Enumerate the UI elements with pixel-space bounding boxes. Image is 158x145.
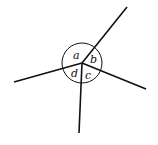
- angle-label-c: c: [85, 69, 91, 82]
- ray-right: [82, 63, 146, 89]
- ray-upper-right: [82, 7, 127, 63]
- angle-diagram: a b c d: [0, 0, 158, 145]
- angle-label-b: b: [90, 53, 97, 66]
- angle-label-a: a: [73, 49, 80, 62]
- ray-down: [79, 63, 82, 133]
- angle-label-d: d: [71, 67, 78, 80]
